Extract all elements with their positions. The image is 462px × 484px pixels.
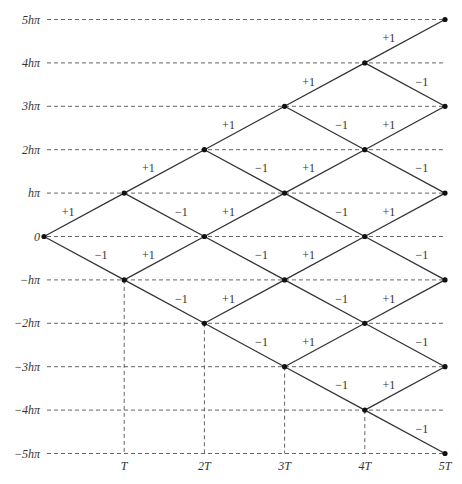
down-edge xyxy=(204,150,284,193)
down-edge xyxy=(365,63,445,106)
down-edge xyxy=(285,106,365,149)
lattice-node xyxy=(362,321,367,326)
down-edge-label: −1 xyxy=(255,248,268,262)
lattice-node xyxy=(362,408,367,413)
lattice-node xyxy=(202,321,207,326)
y-tick-label: 3hπ xyxy=(21,99,41,113)
down-edge-label: −1 xyxy=(416,335,429,349)
down-edge xyxy=(124,193,204,236)
up-edge-label: +1 xyxy=(302,75,315,89)
up-edge-label: +1 xyxy=(302,335,315,349)
lattice-node xyxy=(442,364,447,369)
up-edge xyxy=(204,280,284,323)
y-tick-label: −5hπ xyxy=(14,447,41,461)
up-edge xyxy=(285,323,365,366)
up-edge xyxy=(285,237,365,280)
up-edge-label: +1 xyxy=(383,118,396,132)
down-edge xyxy=(365,150,445,193)
lattice-node xyxy=(122,277,127,282)
x-tick-label: 4T xyxy=(358,459,372,473)
down-edge-label: −1 xyxy=(335,378,348,392)
down-edge-label: −1 xyxy=(255,161,268,175)
lattice-node xyxy=(362,234,367,239)
phase-lattice-diagram: 5hπ4hπ3hπ2hπhπ0−hπ−2hπ−3hπ−4hπ−5hπT2T3T4… xyxy=(0,0,462,484)
y-tick-label: −3hπ xyxy=(14,360,41,374)
lattice-node xyxy=(282,191,287,196)
lattice-node xyxy=(442,191,447,196)
down-edge xyxy=(124,280,204,323)
up-edge-label: +1 xyxy=(383,205,396,219)
lattice-node xyxy=(442,277,447,282)
up-edge xyxy=(44,193,124,236)
down-edge-label: −1 xyxy=(416,422,429,436)
y-tick-label: 0 xyxy=(34,230,40,244)
up-edge xyxy=(204,106,284,149)
up-edge-label: +1 xyxy=(222,292,235,306)
down-edge xyxy=(365,323,445,366)
down-edge xyxy=(204,237,284,280)
y-tick-label: −2hπ xyxy=(14,316,41,330)
down-edge-label: −1 xyxy=(416,75,429,89)
down-edge-label: −1 xyxy=(255,335,268,349)
up-edge-label: +1 xyxy=(383,292,396,306)
down-edge xyxy=(365,410,445,453)
lattice-node xyxy=(362,147,367,152)
lattice-node xyxy=(202,234,207,239)
up-edge-label: +1 xyxy=(302,248,315,262)
y-tick-label: −hπ xyxy=(20,273,41,287)
down-edge-label: −1 xyxy=(95,248,108,262)
lattice-node xyxy=(362,60,367,65)
up-edge-label: +1 xyxy=(142,161,155,175)
lattice-node xyxy=(442,17,447,22)
down-edge-label: −1 xyxy=(175,292,188,306)
y-tick-label: 5hπ xyxy=(22,13,41,27)
y-tick-label: hπ xyxy=(28,186,41,200)
y-tick-label: 4hπ xyxy=(22,56,41,70)
down-edge-label: −1 xyxy=(335,292,348,306)
up-edge-label: +1 xyxy=(222,118,235,132)
up-edge-label: +1 xyxy=(383,31,396,45)
down-edge xyxy=(285,367,365,410)
x-tick-label: 3T xyxy=(277,459,292,473)
y-tick-label: 2hπ xyxy=(22,143,41,157)
down-edge xyxy=(365,237,445,280)
down-edge-label: −1 xyxy=(335,205,348,219)
y-tick-label: −4hπ xyxy=(14,403,41,417)
down-edge xyxy=(285,280,365,323)
down-edge xyxy=(285,193,365,236)
up-edge xyxy=(365,193,445,236)
up-edge xyxy=(365,106,445,149)
up-edge xyxy=(365,367,445,410)
up-edge xyxy=(285,63,365,106)
up-edge-label: +1 xyxy=(383,378,396,392)
x-tick-label: T xyxy=(121,459,129,473)
labels: 5hπ4hπ3hπ2hπhπ0−hπ−2hπ−3hπ−4hπ−5hπT2T3T4… xyxy=(14,13,453,473)
up-edge xyxy=(365,20,445,63)
lattice-node xyxy=(282,277,287,282)
up-edge-label: +1 xyxy=(222,205,235,219)
up-edge xyxy=(285,150,365,193)
down-edge-label: −1 xyxy=(335,118,348,132)
up-edge-label: +1 xyxy=(142,248,155,262)
lattice-node xyxy=(202,147,207,152)
up-edge xyxy=(124,150,204,193)
down-edge-label: −1 xyxy=(416,248,429,262)
down-edge xyxy=(44,237,124,280)
lattice-node xyxy=(122,191,127,196)
up-edge-label: +1 xyxy=(62,205,75,219)
up-edge xyxy=(124,237,204,280)
down-edge-label: −1 xyxy=(175,205,188,219)
down-edge xyxy=(204,323,284,366)
up-edge xyxy=(204,193,284,236)
lattice-node xyxy=(442,104,447,109)
up-edge-label: +1 xyxy=(302,161,315,175)
x-tick-label: 2T xyxy=(198,459,212,473)
lattice-node xyxy=(41,234,46,239)
x-tick-label: 5T xyxy=(439,459,453,473)
down-edge-label: −1 xyxy=(416,161,429,175)
lattice-node xyxy=(282,364,287,369)
lattice-node xyxy=(282,104,287,109)
up-edge xyxy=(365,280,445,323)
lattice-node xyxy=(442,451,447,456)
